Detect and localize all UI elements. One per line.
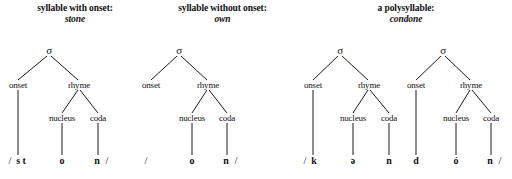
sigma-node: σ (337, 44, 343, 56)
onset-node: onset (9, 80, 27, 90)
branch-sigma-onset (313, 56, 338, 80)
sigma-node: σ (176, 44, 182, 56)
branch-sigma-onset (416, 56, 441, 80)
branch-sigma-rhyme (342, 56, 368, 80)
coda-segment: n (487, 155, 493, 166)
coda-segment: n (223, 155, 229, 166)
coda-node: coda (219, 113, 235, 123)
onset-segment: k (311, 155, 317, 166)
coda-node: coda (381, 113, 397, 123)
rhyme-node: rhyme (358, 80, 380, 90)
branch-sigma-rhyme (445, 56, 470, 80)
nucleus-segment: o (60, 155, 65, 166)
transcription-close-slash: / (499, 155, 502, 166)
nucleus-node: nucleus (179, 113, 205, 123)
coda-node: coda (483, 113, 499, 123)
transcription-close-slash: / (235, 155, 238, 166)
transcription-open-slash: / (9, 155, 12, 166)
coda-segment: n (94, 155, 100, 166)
nucleus-node: nucleus (49, 113, 75, 123)
branch-rhyme-coda (80, 90, 98, 113)
nucleus-segment: ə (351, 155, 355, 166)
nucleus-segment: ó (454, 155, 459, 166)
branch-rhyme-nucleus (62, 90, 78, 113)
nucleus-segment: o (190, 155, 195, 166)
branch-rhyme-coda (472, 90, 491, 113)
coda-node: coda (90, 113, 106, 123)
onset-node: onset (407, 80, 425, 90)
transcription-open-slash: / (145, 155, 148, 166)
onset-node: onset (304, 80, 322, 90)
sigma-node: σ (46, 44, 52, 56)
branch-rhyme-coda (370, 90, 389, 113)
onset-node: onset (142, 80, 160, 90)
rhyme-node: rhyme (197, 80, 219, 90)
transcription-close-slash: / (106, 155, 109, 166)
nucleus-node: nucleus (443, 113, 469, 123)
nucleus-node: nucleus (340, 113, 366, 123)
sigma-node: σ (440, 44, 446, 56)
branch-sigma-onset (18, 56, 47, 80)
onset-segment: d (413, 155, 419, 166)
branch-sigma-rhyme (51, 56, 78, 80)
rhyme-node: rhyme (460, 80, 482, 90)
coda-segment: n (386, 155, 392, 166)
onset-segment: s t (16, 155, 26, 166)
branch-rhyme-nucleus (353, 90, 368, 113)
syllable-structure-figure: syllable with onset: stone syllable with… (0, 0, 512, 179)
branch-rhyme-nucleus (192, 90, 207, 113)
branch-sigma-rhyme (181, 56, 207, 80)
branch-rhyme-nucleus (456, 90, 470, 113)
rhyme-node: rhyme (68, 80, 90, 90)
transcription-open-slash: / (304, 155, 307, 166)
branch-rhyme-coda (209, 90, 227, 113)
branch-sigma-onset (151, 56, 177, 80)
